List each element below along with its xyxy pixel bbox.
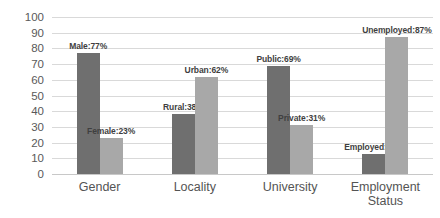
- y-axis-tick-label: 70: [0, 58, 44, 70]
- x-axis-category-label: University: [243, 180, 338, 194]
- bar-chart: 1009080706050403020100 Male:77%Female:23…: [0, 0, 440, 218]
- bar: [100, 138, 123, 174]
- bar-value-label: Urban:62%: [185, 66, 229, 75]
- bar: [172, 114, 195, 174]
- y-axis-tick-label: 40: [0, 105, 44, 117]
- bar-value-label: Female:23%: [87, 127, 135, 136]
- x-axis-category-label: Employment Status: [338, 180, 433, 208]
- bar: [362, 154, 385, 174]
- bar-groups: Male:77%Female:23%Rural:38%Urban:62%Publ…: [52, 17, 433, 174]
- bar-value-label: Unemployed:87%: [362, 26, 431, 35]
- y-axis-tick-label: 80: [0, 42, 44, 54]
- bar: [77, 53, 100, 174]
- x-axis-category-label: Locality: [147, 180, 242, 194]
- x-axis-category-label: Gender: [52, 180, 147, 194]
- bar-value-label: Public:69%: [256, 55, 300, 64]
- axis-baseline: [52, 174, 433, 175]
- y-axis-tick-label: 60: [0, 74, 44, 86]
- bar: [290, 125, 313, 174]
- y-axis-tick-label: 30: [0, 121, 44, 133]
- bar: [385, 37, 408, 174]
- y-axis: 1009080706050403020100: [0, 0, 48, 218]
- y-axis-tick-label: 0: [0, 168, 44, 180]
- y-axis-tick-label: 90: [0, 27, 44, 39]
- y-axis-tick-label: 10: [0, 152, 44, 164]
- bar: [195, 77, 218, 174]
- y-axis-tick-label: 50: [0, 90, 44, 102]
- bar-value-label: Male:77%: [69, 42, 107, 51]
- y-axis-tick-label: 100: [0, 11, 44, 23]
- y-axis-tick-label: 20: [0, 137, 44, 149]
- bar-value-label: Private:31%: [278, 114, 325, 123]
